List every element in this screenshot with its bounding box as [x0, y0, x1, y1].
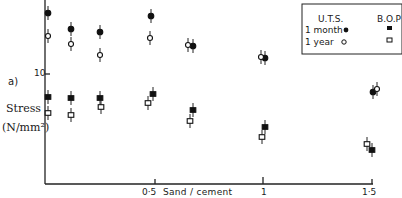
marker — [262, 125, 268, 130]
marker — [259, 135, 265, 140]
x-tick-label-1: 1 — [261, 188, 267, 197]
marker — [148, 13, 154, 19]
data-point-bop-month — [68, 91, 74, 105]
marker — [45, 95, 51, 100]
marker — [45, 111, 51, 116]
marker — [68, 96, 74, 101]
marker — [68, 113, 74, 118]
y-axis-label-units: (N/mm²) — [2, 122, 49, 133]
data-point-bop-month — [262, 120, 268, 134]
data-point-bop-year — [45, 106, 51, 120]
data-point-bop-month — [150, 87, 156, 101]
data-point-uts-year — [98, 48, 103, 62]
marker — [145, 101, 151, 106]
marker — [45, 10, 51, 16]
data-point-uts-year — [148, 31, 153, 45]
data-point-uts-month — [45, 6, 51, 20]
marker — [98, 105, 104, 110]
data-point-bop-year — [98, 100, 104, 114]
marker — [364, 142, 370, 147]
marker — [187, 119, 193, 124]
marker — [97, 96, 103, 101]
marker — [46, 34, 51, 39]
data-point-bop-year — [145, 96, 151, 110]
data-point-bop-year — [187, 114, 193, 128]
x-axis-title: Sand / cement — [163, 188, 232, 197]
data-point-uts-month — [97, 25, 103, 39]
panel-label: a) — [8, 77, 18, 87]
legend-label-1-month: 1 month — [305, 26, 343, 35]
marker — [69, 42, 74, 47]
marker — [148, 36, 153, 41]
marker — [68, 26, 74, 32]
marker — [98, 53, 103, 58]
marker — [190, 108, 196, 113]
data-point-bop-month — [45, 90, 51, 104]
data-point-uts-month — [148, 9, 154, 23]
marker — [150, 92, 156, 97]
data-point-bop-year — [68, 108, 74, 122]
data-point-bop-month — [190, 103, 196, 117]
marker — [369, 148, 375, 153]
data-point-uts-year — [186, 38, 191, 52]
data-point-bop-month — [97, 91, 103, 105]
x-tick-label-15: 1·5 — [362, 188, 376, 197]
legend-header-bop: B.O.P — [377, 15, 401, 24]
data-point-uts-month — [68, 22, 74, 36]
x-tick-label-05: 0·5 — [142, 188, 156, 197]
y-tick-label-10: 10 — [34, 69, 45, 78]
y-axis-label-stress: Stress — [6, 103, 41, 114]
marker — [186, 43, 191, 48]
data-point-uts-month — [190, 39, 196, 53]
marker — [375, 87, 380, 92]
data-point-bop-year — [259, 130, 265, 144]
legend-header-uts: U.T.S. — [318, 15, 343, 24]
marker — [259, 55, 264, 60]
legend-label-1-year: 1 year — [305, 38, 334, 47]
data-point-uts-year — [46, 29, 51, 43]
data-point-uts-year — [259, 50, 264, 64]
marker — [97, 29, 103, 35]
marker — [190, 43, 196, 49]
data-point-uts-year — [69, 37, 74, 51]
